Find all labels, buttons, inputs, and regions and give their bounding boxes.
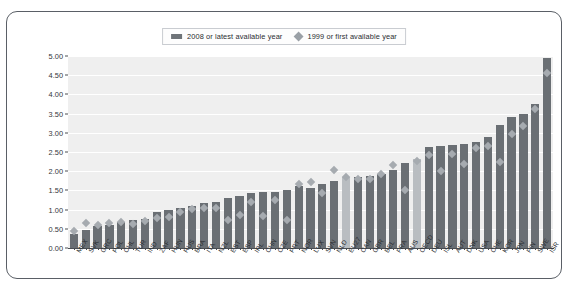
bar-slot (342, 56, 350, 248)
y-axis-tick-label: 3.50 (49, 109, 63, 118)
bar-slot (271, 56, 279, 248)
bar-slot (176, 56, 184, 248)
bar-slot (366, 56, 374, 248)
bar-fin (519, 114, 527, 248)
bar-kor (496, 125, 504, 248)
bar-slot (354, 56, 362, 248)
bar-isl (436, 146, 444, 248)
bar-slot (377, 56, 385, 248)
bar-usa (472, 142, 480, 248)
bar-aus (401, 163, 409, 248)
y-axis-tick-label: 4.50 (49, 71, 63, 80)
y-axis-tick-label: 0.00 (49, 244, 63, 253)
y-axis-tick-label: 4.00 (49, 90, 63, 99)
bar-oecd (413, 159, 421, 248)
y-axis-tick-label: 1.50 (49, 186, 63, 195)
bar-slot (436, 56, 444, 248)
y-axis-tick-label: 5.00 (49, 52, 63, 61)
plot-wrapper: 0.000.501.001.502.002.503.003.504.004.50… (7, 12, 563, 280)
bar-slot (212, 56, 220, 248)
bar-swe (531, 104, 539, 248)
bar-slot (484, 56, 492, 248)
bar-slot (295, 56, 303, 248)
bar-slot (70, 56, 78, 248)
bar-fra (389, 170, 397, 248)
bar-slot (460, 56, 468, 248)
y-axis-tick-label: 1.00 (49, 205, 63, 214)
bar-slot (401, 56, 409, 248)
bar-slot (188, 56, 196, 248)
plot-area (68, 56, 553, 248)
bar-eu27 (342, 177, 350, 248)
y-axis-tick-label: 2.00 (49, 167, 63, 176)
bar-isr (543, 58, 551, 248)
y-axis-tick-label: 2.50 (49, 148, 63, 157)
bar-slot (543, 56, 551, 248)
bar-slot (496, 56, 504, 248)
bar-slot (519, 56, 527, 248)
bar-slot (330, 56, 338, 248)
bar-slot (413, 56, 421, 248)
bar-slot (93, 56, 101, 248)
bar-slot (507, 56, 515, 248)
bar-che (484, 137, 492, 248)
bar-slot (200, 56, 208, 248)
bar-aut (448, 145, 456, 248)
chart-figure: 2008 or latest available year 1999 or fi… (6, 11, 562, 279)
bar-slot (247, 56, 255, 248)
bar-slot (318, 56, 326, 248)
bar-slot (531, 56, 539, 248)
y-axis-tick-label: 0.50 (49, 224, 63, 233)
x-axis-tick-labels: MEXSVKGRCPOLCHLTURINDZAFHUNRUSBRAITANZLE… (68, 250, 553, 280)
bar-slot (306, 56, 314, 248)
bar-slot (389, 56, 397, 248)
y-axis-tick-label: 3.00 (49, 128, 63, 137)
y-axis-tick-labels: 0.000.501.001.502.002.503.003.504.004.50… (33, 56, 63, 248)
